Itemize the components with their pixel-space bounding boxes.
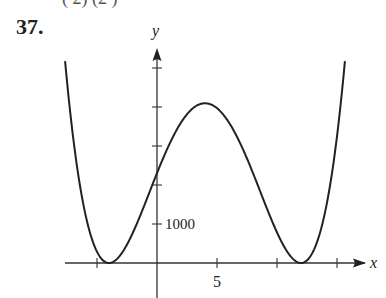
y-tick-labels: 1000: [165, 216, 195, 232]
function-curve: [65, 61, 345, 263]
chart: x y 5 1000: [0, 0, 386, 298]
y-tick-label: 1000: [165, 216, 195, 232]
x-tick-label: 5: [213, 273, 221, 290]
x-axis-label: x: [369, 254, 377, 271]
x-tick-labels: 5: [213, 273, 221, 290]
y-axis-label: y: [150, 22, 160, 40]
